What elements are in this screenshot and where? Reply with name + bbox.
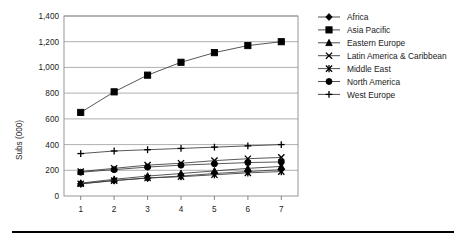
legend-label: Middle East	[347, 64, 391, 74]
legend-label: Eastern Europe	[347, 38, 406, 48]
y-tick-label-0: 0	[54, 192, 59, 201]
legend-label: Africa	[347, 12, 369, 22]
plot-frame	[64, 16, 298, 196]
chart-legend: AfricaAsia PacificEastern EuropeLatin Am…	[318, 12, 447, 99]
y-axis-tick-labels: 1,400 1,200 1,000 800 600 400 200 0	[39, 12, 60, 201]
y-tick-label-1000: 1,000	[39, 63, 60, 72]
legend-item-north-america[interactable]: North America	[318, 77, 400, 87]
legend-marker	[326, 27, 332, 33]
data-point	[145, 164, 151, 170]
legend-item-asia-pacific[interactable]: Asia Pacific	[318, 25, 390, 35]
legend-label: Latin America & Caribbean	[347, 51, 447, 61]
legend-label: Asia Pacific	[347, 25, 390, 35]
data-point	[178, 162, 184, 168]
x-tick-label-1: 1	[78, 205, 83, 214]
x-axis-tick-labels: 1 2 3 4 5 6 7	[78, 205, 284, 214]
series-asia-pacific	[78, 39, 285, 116]
line-chart: Subs (000) 1,400 1,200 1,000 800 600 400…	[0, 0, 466, 242]
x-axis-ticks	[81, 196, 282, 200]
y-tick-label-600: 600	[45, 115, 59, 124]
data-point	[111, 89, 117, 95]
x-tick-label-6: 6	[246, 205, 251, 214]
data-point	[111, 167, 117, 173]
legend-item-middle-east[interactable]: Middle East	[318, 64, 391, 74]
x-tick-label-4: 4	[179, 205, 184, 214]
data-point	[278, 159, 284, 165]
data-point	[178, 145, 185, 152]
legend-item-latin-america-caribbean[interactable]: Latin America & Caribbean	[318, 51, 447, 61]
data-point	[244, 142, 251, 149]
y-tick-label-1200: 1,200	[39, 38, 60, 47]
data-point	[111, 148, 118, 155]
x-tick-label-3: 3	[145, 205, 150, 214]
legend-marker	[326, 14, 332, 21]
legend-item-eastern-europe[interactable]: Eastern Europe	[318, 38, 406, 48]
data-point	[144, 146, 151, 153]
data-point	[245, 160, 251, 166]
legend-label: North America	[347, 77, 400, 87]
x-tick-label-5: 5	[212, 205, 217, 214]
legend-marker	[326, 91, 333, 98]
data-point	[211, 161, 217, 167]
y-tick-label-200: 200	[45, 166, 59, 175]
x-tick-label-7: 7	[279, 205, 284, 214]
legend-item-west-europe[interactable]: West Europe	[318, 90, 396, 100]
y-tick-label-800: 800	[45, 89, 59, 98]
chart-figure: Subs (000) 1,400 1,200 1,000 800 600 400…	[0, 0, 466, 242]
data-point	[178, 59, 184, 65]
legend-marker	[326, 79, 332, 85]
data-point	[278, 39, 284, 45]
data-point	[77, 150, 84, 157]
y-tick-label-400: 400	[45, 141, 59, 150]
data-point	[78, 109, 84, 115]
data-point	[144, 72, 150, 78]
data-point	[211, 50, 217, 56]
y-axis-title: Subs (000)	[15, 120, 24, 160]
data-point	[278, 141, 285, 148]
legend-label: West Europe	[347, 90, 396, 100]
x-tick-label-2: 2	[112, 205, 117, 214]
legend-item-africa[interactable]: Africa	[318, 12, 369, 22]
series-layer	[77, 39, 284, 188]
data-point	[245, 42, 251, 48]
series-west-europe	[77, 141, 284, 157]
data-point	[78, 169, 84, 175]
bottom-rule	[12, 231, 454, 234]
y-tick-label-1400: 1,400	[39, 12, 60, 21]
